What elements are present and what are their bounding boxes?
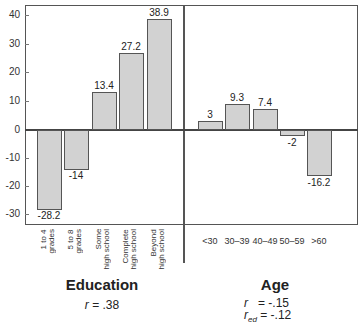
y-tick-label: -10 xyxy=(0,153,20,163)
bar-value: -14 xyxy=(56,171,96,181)
y-tick-label: 10 xyxy=(0,96,20,106)
bar-value: -16.2 xyxy=(299,178,339,188)
y-tick-label: 20 xyxy=(0,67,20,77)
y-tick xyxy=(25,15,29,16)
category-label: Beyond high school xyxy=(150,229,166,269)
category-label: >60 xyxy=(304,236,334,246)
y-tick-label: 30 xyxy=(0,39,20,49)
y-tick xyxy=(25,101,29,102)
y-tick-label: 0 xyxy=(0,125,20,135)
y-tick xyxy=(25,72,29,73)
bar-value: 27.2 xyxy=(111,42,151,52)
bar-value: -2 xyxy=(272,138,312,148)
bar-edu-complete-hs xyxy=(119,53,144,130)
stat-value: = -.12 xyxy=(260,308,291,322)
bar-edu-5-8 xyxy=(64,130,89,170)
panel-title-education: Education xyxy=(42,276,162,293)
category-label: <30 xyxy=(195,236,225,246)
y-tick-label: 40 xyxy=(0,10,20,20)
education-correlation: r = .38 xyxy=(72,298,132,312)
y-tick xyxy=(25,186,29,187)
y-tick xyxy=(25,158,29,159)
bar-value: -28.2 xyxy=(29,211,69,221)
bar-value: 38.9 xyxy=(139,8,179,18)
y-tick-label: -20 xyxy=(0,181,20,191)
category-label: 30–39 xyxy=(222,236,252,246)
category-label: 40–49 xyxy=(250,236,280,246)
stat-value: = .38 xyxy=(92,298,119,312)
bar-value: 3 xyxy=(190,110,230,120)
age-partial-correlation: red = -.12 xyxy=(244,308,314,324)
category-label: Some high school xyxy=(95,229,111,269)
category-label: Complete high school xyxy=(122,229,138,269)
bar-age-50-59 xyxy=(280,130,305,136)
category-label: 50–59 xyxy=(277,236,307,246)
y-tick-label: -30 xyxy=(0,209,20,219)
bar-value: 13.4 xyxy=(84,81,124,91)
category-label: 1 to 4 grades xyxy=(40,229,56,253)
category-label: 5 to 8 grades xyxy=(67,229,83,253)
bar-edu-some-hs xyxy=(92,92,117,130)
bar-edu-1-4 xyxy=(37,130,62,210)
y-tick xyxy=(25,44,29,45)
bar-age-over-60 xyxy=(307,130,332,176)
bar-value: 7.4 xyxy=(245,98,285,108)
bar-edu-beyond-hs xyxy=(147,19,172,130)
panel-divider xyxy=(183,5,185,263)
bar-age-40-49 xyxy=(253,109,278,130)
bar-age-under-30 xyxy=(198,121,223,130)
panel-title-age: Age xyxy=(215,276,335,293)
